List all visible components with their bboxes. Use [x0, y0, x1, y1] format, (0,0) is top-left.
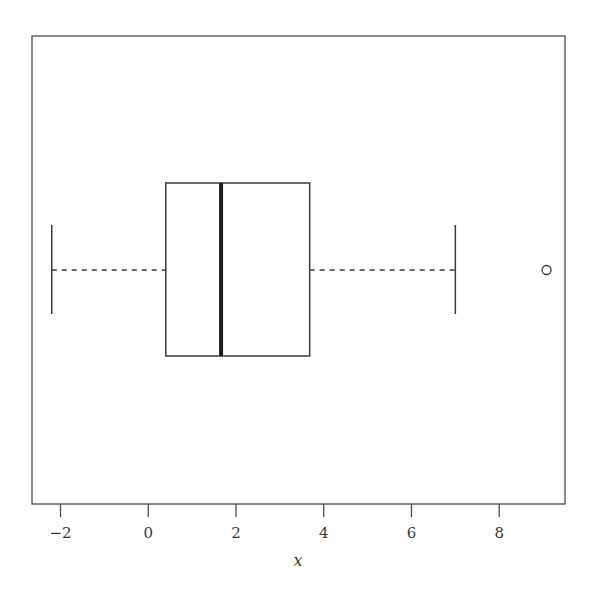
outlier-point — [542, 266, 551, 275]
x-axis-title: x — [293, 551, 302, 570]
boxplot-chart: −202468 x — [0, 0, 595, 599]
x-tick-label: 2 — [231, 524, 241, 542]
x-tick-label: 6 — [407, 524, 417, 542]
x-tick-label: 4 — [319, 524, 329, 542]
x-tick-label: −2 — [49, 524, 71, 542]
box-group — [52, 183, 551, 356]
x-tick-label: 8 — [494, 524, 504, 542]
iqr-box — [166, 183, 310, 356]
x-axis: −202468 — [49, 504, 504, 542]
x-tick-label: 0 — [143, 524, 153, 542]
